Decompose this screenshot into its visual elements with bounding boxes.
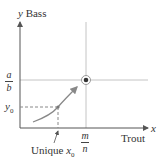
unique-x0-annotation: Unique x0 — [31, 145, 75, 159]
equilibrium-dot — [84, 78, 89, 83]
trajectory-curve — [33, 87, 77, 122]
n-denominator: n — [83, 144, 88, 154]
a-numerator: a — [7, 70, 12, 80]
y-axis-name: Bass — [26, 7, 47, 19]
m-numerator: m — [81, 131, 88, 141]
m-over-n-label: m n — [81, 131, 89, 154]
x0-pointer-line — [54, 131, 58, 143]
y0-sub: 0 — [10, 107, 14, 115]
x-axis-label: Trout — [121, 133, 145, 144]
y0-label: y0 — [5, 101, 13, 115]
y-axis-var: y — [18, 7, 23, 19]
x-axis-var: x — [151, 123, 156, 134]
a-over-b-label: a b — [5, 70, 13, 93]
x0-point — [56, 105, 59, 108]
b-denominator: b — [7, 83, 12, 93]
y-axis-label: y Bass — [18, 8, 46, 19]
annotation-text: Unique — [31, 144, 66, 156]
annotation-sub: 0 — [71, 151, 75, 159]
